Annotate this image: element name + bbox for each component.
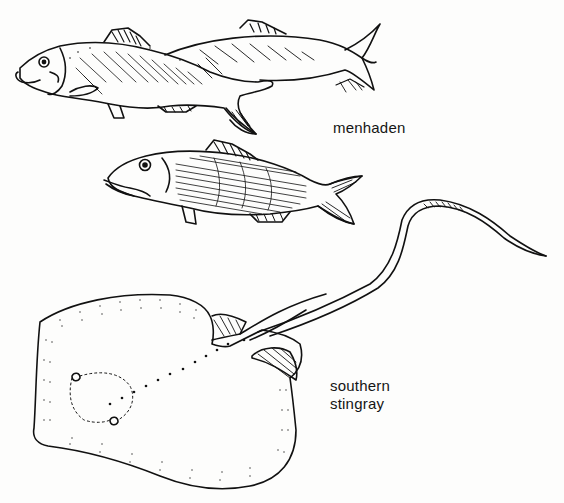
menhaden-top-drawing xyxy=(16,20,380,134)
stingray-label-line1: southern xyxy=(330,377,390,395)
menhaden-label: menhaden xyxy=(333,119,406,137)
stingray-drawing xyxy=(34,200,546,489)
fish-illustration xyxy=(0,0,564,503)
illustration-canvas: menhaden southern stingray xyxy=(0,0,564,503)
menhaden-middle-drawing xyxy=(104,140,362,224)
stingray-label-line2: stingray xyxy=(330,395,390,413)
stingray-label: southern stingray xyxy=(330,377,390,413)
